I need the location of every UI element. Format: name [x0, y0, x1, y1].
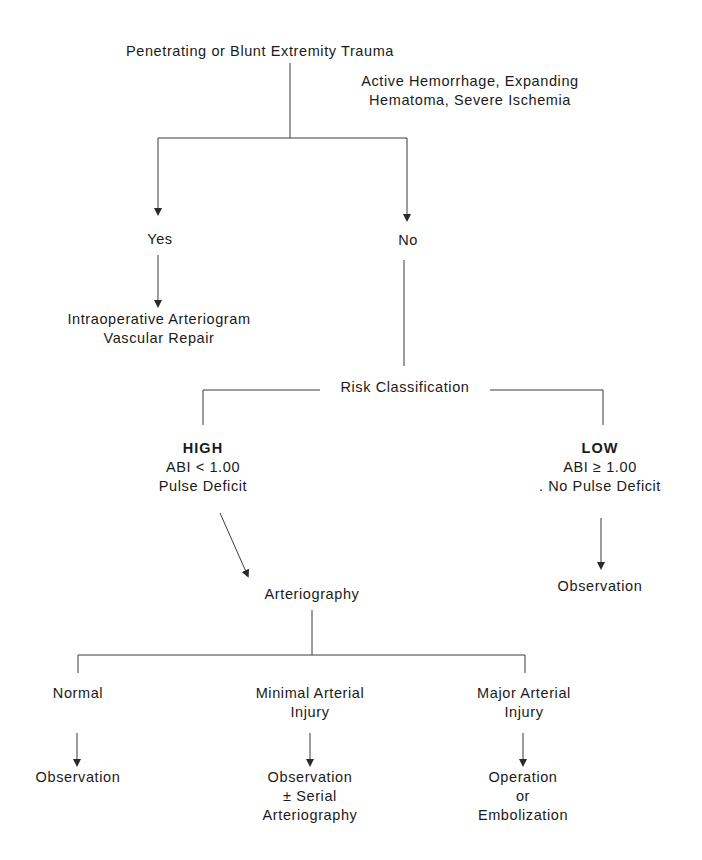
- risk-classification-node: Risk Classification: [334, 378, 475, 397]
- result-major-finding-2: Injury: [477, 703, 571, 722]
- risk-low-outcome-node: Observation: [558, 577, 643, 596]
- result-major-outcome-2: or: [478, 787, 568, 806]
- no-node: No: [398, 231, 418, 250]
- root-node: Penetrating or Blunt Extremity Trauma: [126, 42, 394, 61]
- risk-low-node: LOW ABI ≥ 1.00 . No Pulse Deficit: [539, 439, 661, 496]
- yes-outcome-line-2: Vascular Repair: [67, 329, 250, 348]
- result-minimal-finding-2: Injury: [256, 703, 365, 722]
- result-minimal-finding-1: Minimal Arterial: [256, 684, 365, 703]
- result-minimal-outcome-2: ± Serial: [263, 787, 358, 806]
- arteriography-node: Arteriography: [265, 585, 360, 604]
- risk-low-criterion-2: . No Pulse Deficit: [539, 477, 661, 496]
- result-major-node: Major Arterial Injury: [477, 684, 571, 722]
- yes-outcome-line-1: Intraoperative Arteriogram: [67, 310, 250, 329]
- risk-high-criterion-1: ABI < 1.00: [159, 458, 247, 477]
- risk-bracket-right: [490, 390, 603, 425]
- result-normal-node: Normal: [53, 684, 103, 703]
- no-label: No: [398, 231, 418, 250]
- result-minimal-node: Minimal Arterial Injury: [256, 684, 365, 722]
- flowchart-canvas: Penetrating or Blunt Extremity Trauma Ac…: [0, 0, 702, 860]
- decision-question: Active Hemorrhage, Expanding Hematoma, S…: [361, 72, 579, 110]
- risk-low-criterion-1: ABI ≥ 1.00: [539, 458, 661, 477]
- risk-bracket-left: [203, 390, 320, 425]
- risk-high-node: HIGH ABI < 1.00 Pulse Deficit: [159, 439, 247, 496]
- decision-question-line-2: Hematoma, Severe Ischemia: [361, 91, 579, 110]
- result-major-finding-1: Major Arterial: [477, 684, 571, 703]
- result-major-outcome-3: Embolization: [478, 806, 568, 825]
- arteriography-label: Arteriography: [265, 585, 360, 604]
- root-label: Penetrating or Blunt Extremity Trauma: [126, 42, 394, 61]
- result-major-outcome-1: Operation: [478, 768, 568, 787]
- result-minimal-outcome-1: Observation: [263, 768, 358, 787]
- yes-node: Yes: [147, 230, 172, 249]
- result-minimal-outcome-3: Arteriography: [263, 806, 358, 825]
- result-major-outcome-node: Operation or Embolization: [478, 768, 568, 825]
- result-minimal-outcome-node: Observation ± Serial Arteriography: [263, 768, 358, 825]
- risk-low-outcome-label: Observation: [558, 577, 643, 596]
- risk-low-title: LOW: [539, 439, 661, 458]
- risk-high-title: HIGH: [159, 439, 247, 458]
- connector-lines: [0, 0, 702, 860]
- yes-outcome-node: Intraoperative Arteriogram Vascular Repa…: [67, 310, 250, 348]
- result-normal-outcome-node: Observation: [36, 768, 121, 787]
- yes-label: Yes: [147, 230, 172, 249]
- decision-question-line-1: Active Hemorrhage, Expanding: [361, 72, 579, 91]
- risk-high-criterion-2: Pulse Deficit: [159, 477, 247, 496]
- high-to-arteriography-arrow: [220, 513, 247, 574]
- result-normal-finding: Normal: [53, 684, 103, 703]
- risk-classification-label: Risk Classification: [334, 378, 475, 397]
- result-normal-outcome: Observation: [36, 768, 121, 787]
